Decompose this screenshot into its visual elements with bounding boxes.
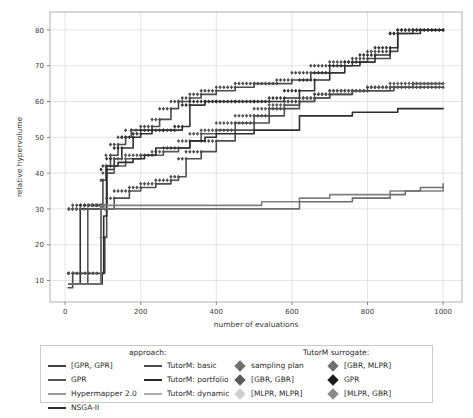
legend-surrogate-item-1[interactable]: [GBR, GBR] [234, 373, 304, 387]
diamond-marker-icon [327, 360, 338, 371]
legend-line-swatch [48, 407, 66, 409]
diamond-marker-icon [234, 388, 245, 399]
legend-line-swatch [48, 379, 66, 381]
legend-line-swatch [144, 379, 162, 381]
legend-entry-label: [MLPR, GBR] [344, 390, 391, 398]
legend-entry-label: TutorM: dynamic [167, 390, 229, 398]
y-tick-label: 10 [35, 277, 44, 285]
legend-box: approach: TutorM surrogate: [GPR, GPR]GP… [40, 345, 433, 403]
legend-line-swatch [144, 365, 162, 367]
x-tick-label: 400 [210, 308, 223, 316]
diamond-marker-icon [327, 388, 338, 399]
y-axis-label: relative hypervolume [15, 117, 24, 197]
legend-column-surrogate-2: [GBR, MLPR]GPR[MLPR, GBR] [327, 359, 391, 401]
figure-container: 020040060080010001020304050607080number … [0, 0, 473, 418]
y-tick-label: 40 [35, 170, 44, 178]
legend-entry-label: TutorM: portfolio [167, 376, 229, 384]
y-tick-label: 70 [35, 62, 44, 70]
legend-entry-label: [GPR, GPR] [71, 362, 113, 370]
x-tick-label: 600 [285, 308, 298, 316]
legend-column-approach-2: TutorM: basicTutorM: portfolioTutorM: dy… [144, 359, 229, 401]
x-tick-label: 800 [361, 308, 374, 316]
legend-entry-label: [GBR, GBR] [251, 376, 294, 384]
legend-line-swatch [48, 365, 66, 367]
legend-approach-item-1[interactable]: GPR [48, 373, 137, 387]
legend-column-surrogate-1: sampling plan[GBR, GBR][MLPR, MLPR] [234, 359, 304, 401]
y-tick-label: 50 [35, 134, 44, 142]
legend-line-swatch [48, 393, 66, 395]
diamond-marker-icon [234, 360, 245, 371]
y-tick-label: 20 [35, 241, 44, 249]
legend-entry-label: sampling plan [251, 362, 304, 370]
legend-approach-item-b-2[interactable]: TutorM: dynamic [144, 387, 229, 401]
legend-surrogate-item-b-0[interactable]: [GBR, MLPR] [327, 359, 391, 373]
legend-title-approach: approach: [129, 348, 167, 357]
legend-approach-item-2[interactable]: Hypermapper 2.0 [48, 387, 137, 401]
x-axis-label: number of evaluations [214, 320, 299, 329]
legend-approach-item-3[interactable]: NSGA-II [48, 401, 137, 415]
legend-entry-label: GPR [344, 376, 360, 384]
y-tick-label: 80 [35, 27, 44, 35]
legend-surrogate-item-b-1[interactable]: GPR [327, 373, 391, 387]
legend-entry-label: [MLPR, MLPR] [251, 390, 302, 398]
legend-title-surrogate: TutorM surrogate: [303, 348, 369, 357]
legend-entry-label: TutorM: basic [167, 362, 217, 370]
y-tick-label: 60 [35, 98, 44, 106]
legend-line-swatch [144, 393, 162, 395]
x-tick-label: 1000 [434, 308, 452, 316]
legend-surrogate-item-b-2[interactable]: [MLPR, GBR] [327, 387, 391, 401]
legend-approach-item-0[interactable]: [GPR, GPR] [48, 359, 137, 373]
plot-background [50, 12, 462, 302]
legend-entry-label: [GBR, MLPR] [344, 362, 391, 370]
diamond-marker-icon [234, 374, 245, 385]
legend-entry-label: GPR [71, 376, 87, 384]
legend-approach-item-b-0[interactable]: TutorM: basic [144, 359, 229, 373]
legend-surrogate-item-0[interactable]: sampling plan [234, 359, 304, 373]
diamond-marker-icon [327, 374, 338, 385]
legend-approach-item-b-1[interactable]: TutorM: portfolio [144, 373, 229, 387]
legend-entry-label: NSGA-II [71, 404, 99, 412]
legend-column-approach-1: [GPR, GPR]GPRHypermapper 2.0NSGA-II [48, 359, 137, 415]
legend-entry-label: Hypermapper 2.0 [71, 390, 137, 398]
y-tick-label: 30 [35, 206, 44, 214]
legend-titles: approach: TutorM surrogate: [41, 346, 432, 358]
legend-surrogate-item-2[interactable]: [MLPR, MLPR] [234, 387, 304, 401]
x-tick-label: 0 [63, 308, 67, 316]
x-tick-label: 200 [134, 308, 147, 316]
